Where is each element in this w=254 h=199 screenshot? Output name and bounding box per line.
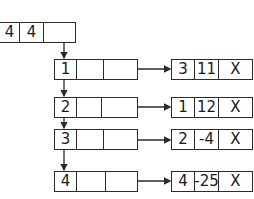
header-node: 4 4 <box>0 22 76 43</box>
row-node-2: 2 <box>54 97 138 118</box>
row-node-cell <box>77 60 104 79</box>
element-value: 11 <box>195 60 219 79</box>
element-next: X <box>219 172 252 191</box>
row-node-index: 3 <box>55 130 77 149</box>
row-node-1: 1 <box>54 59 138 80</box>
row-node-cell <box>102 98 137 117</box>
row-node-cell <box>106 172 137 191</box>
element-node-4: 4 -25 X <box>171 171 253 192</box>
header-cell-0: 4 <box>0 23 20 42</box>
row-node-cell <box>104 130 137 149</box>
row-node-index: 1 <box>55 60 77 79</box>
element-next: X <box>219 130 252 149</box>
row-node-index: 2 <box>55 98 77 117</box>
header-cell-1: 4 <box>20 23 44 42</box>
header-cell-2 <box>44 23 75 42</box>
element-next: X <box>219 98 252 117</box>
element-value: -25 <box>195 172 219 191</box>
row-node-cell <box>77 130 104 149</box>
element-node-2: 1 12 X <box>171 97 253 118</box>
element-node-1: 3 11 X <box>171 59 253 80</box>
element-node-3: 2 -4 X <box>171 129 253 150</box>
row-node-cell <box>104 60 137 79</box>
element-value: -4 <box>195 130 219 149</box>
row-node-4: 4 <box>54 171 138 192</box>
element-col: 3 <box>172 60 195 79</box>
element-col: 1 <box>172 98 195 117</box>
element-value: 12 <box>195 98 219 117</box>
element-col: 2 <box>172 130 195 149</box>
element-col: 4 <box>172 172 195 191</box>
row-node-index: 4 <box>55 172 77 191</box>
row-node-cell <box>77 172 106 191</box>
row-node-cell <box>77 98 102 117</box>
element-next: X <box>219 60 252 79</box>
row-node-3: 3 <box>54 129 138 150</box>
